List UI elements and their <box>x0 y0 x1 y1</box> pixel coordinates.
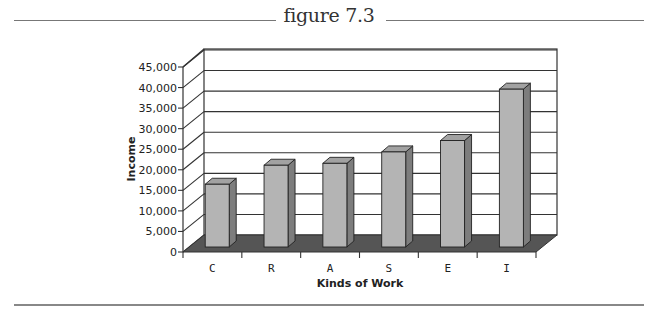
y-tick-label: 40,000 <box>139 82 178 95</box>
y-tick-label: 35,000 <box>139 102 178 115</box>
y-tick-label: 10,000 <box>139 205 178 218</box>
x-tick-label: E <box>444 262 451 275</box>
x-axis: CRASEI <box>183 252 536 275</box>
bottom-rule <box>14 304 644 306</box>
y-tick-label: 45,000 <box>139 61 178 74</box>
bar-I <box>499 83 530 247</box>
bar-C <box>205 178 236 247</box>
x-axis-title: Kinds of Work <box>317 277 404 290</box>
y-tick-label: 15,000 <box>139 184 178 197</box>
y-tick-label: 20,000 <box>139 164 178 177</box>
y-tick-label: 0 <box>170 246 177 259</box>
x-tick-label: S <box>386 262 393 275</box>
bar-chart: 05,00010,00015,00020,00025,00030,00035,0… <box>0 0 658 310</box>
x-tick-label: R <box>268 262 275 275</box>
y-axis: 05,00010,00015,00020,00025,00030,00035,0… <box>139 61 184 259</box>
y-tick-label: 30,000 <box>139 123 178 136</box>
x-tick-label: I <box>503 262 510 275</box>
y-axis-title: Income <box>125 137 138 182</box>
bar-A <box>323 157 354 247</box>
x-tick-label: A <box>327 262 334 275</box>
bar-R <box>264 159 295 247</box>
bar-E <box>441 135 472 247</box>
y-tick-label: 25,000 <box>139 143 178 156</box>
x-tick-label: C <box>209 262 216 275</box>
bar-S <box>382 146 413 247</box>
y-tick-label: 5,000 <box>146 225 178 238</box>
